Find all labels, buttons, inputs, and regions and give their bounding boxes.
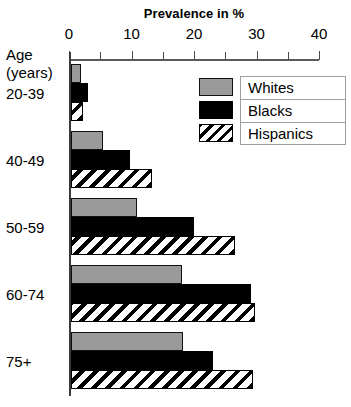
x-tick-major-20: [194, 51, 195, 60]
age-group-50-59: 50-59: [0, 198, 351, 265]
bars-group-50-59: [71, 198, 351, 255]
legend-swatch-whites-icon: [199, 78, 233, 96]
legend-label-hispanics: Hispanics: [240, 122, 346, 145]
x-tick-minor-35: [288, 52, 289, 60]
legend-swatch-hispanics-icon: [199, 124, 233, 142]
bar-whites-20-39: [71, 64, 81, 83]
bar-hispanics-50-59: [71, 236, 235, 255]
x-tick-label-0: 0: [65, 25, 73, 43]
x-tick-label-10: 10: [123, 25, 140, 43]
legend-item-whites: Whites: [199, 76, 347, 99]
bar-blacks-75+: [71, 351, 213, 370]
legend-label-blacks: Blacks: [240, 99, 346, 122]
bar-whites-75+: [71, 332, 183, 351]
x-tick-minor-25: [225, 52, 226, 60]
age-group-75+: 75+: [0, 332, 351, 399]
x-axis-tick-labels: 010203040: [0, 25, 351, 43]
x-tick-minor-15: [163, 52, 164, 60]
bar-hispanics-75+: [71, 370, 253, 389]
x-tick-major-10: [132, 51, 133, 60]
age-group-label-20-39: 20-39: [6, 85, 66, 102]
legend-label-whites: Whites: [240, 76, 346, 99]
bar-whites-60-74: [71, 265, 182, 284]
bar-blacks-60-74: [71, 284, 251, 303]
prevalence-bar-chart: Prevalence in % 010203040 Age (years) 20…: [0, 0, 351, 407]
legend-item-blacks: Blacks: [199, 99, 347, 122]
age-group-label-75+: 75+: [6, 353, 66, 370]
x-tick-minor-5: [100, 52, 101, 60]
bars-group-75+: [71, 332, 351, 389]
bar-whites-50-59: [71, 198, 137, 217]
bar-blacks-40-49: [71, 150, 130, 169]
bar-hispanics-60-74: [71, 303, 255, 322]
legend-item-hispanics: Hispanics: [199, 122, 347, 145]
chart-legend: Whites Blacks Hispanics: [199, 76, 347, 145]
bars-group-60-74: [71, 265, 351, 322]
x-tick-label-20: 20: [186, 25, 203, 43]
bar-blacks-20-39: [71, 83, 88, 102]
x-tick-major-30: [257, 51, 258, 60]
age-group-label-50-59: 50-59: [6, 219, 66, 236]
chart-title: Prevalence in %: [69, 6, 319, 21]
legend-swatch-blacks-icon: [199, 101, 233, 119]
bar-whites-40-49: [71, 131, 103, 150]
x-tick-major-40: [319, 51, 320, 60]
bar-hispanics-40-49: [71, 169, 152, 188]
bar-hispanics-20-39: [71, 102, 83, 121]
age-group-60-74: 60-74: [0, 265, 351, 332]
bar-blacks-50-59: [71, 217, 194, 236]
age-group-label-40-49: 40-49: [6, 152, 66, 169]
x-tick-label-30: 30: [248, 25, 265, 43]
age-group-label-60-74: 60-74: [6, 286, 66, 303]
x-tick-label-40: 40: [311, 25, 328, 43]
